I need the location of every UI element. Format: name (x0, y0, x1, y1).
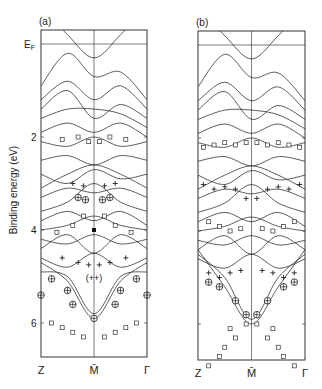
square-marker (287, 143, 291, 147)
circled-plus-marker (48, 276, 55, 283)
panel-b: (b)ZM̄Γ (195, 8, 308, 379)
square-marker (276, 345, 280, 349)
square-marker (108, 135, 112, 139)
panel-label: (b) (196, 17, 208, 28)
square-marker (217, 224, 221, 228)
y-tick-label: 6 (31, 318, 37, 329)
square-marker (271, 327, 275, 331)
y-tick-label: EF (24, 39, 35, 51)
plus-marker (281, 275, 286, 280)
plus-marker (254, 196, 259, 201)
plus-marker (270, 270, 275, 275)
plus-marker (292, 270, 297, 275)
square-marker (103, 214, 107, 218)
circled-plus-marker (112, 301, 119, 308)
square-marker (276, 141, 280, 145)
square-marker (228, 327, 232, 331)
circled-plus-marker (291, 279, 298, 286)
plus-marker (201, 182, 206, 187)
square-marker (55, 230, 59, 234)
panel-label: (a) (39, 16, 51, 27)
square-marker (255, 322, 259, 326)
x-tick-label: Z (38, 364, 45, 376)
square-marker (87, 140, 91, 144)
square-marker (129, 230, 133, 234)
square-marker (81, 335, 85, 339)
square-marker (282, 224, 286, 228)
square-marker (228, 229, 232, 233)
x-tick-label: Γ (302, 367, 308, 379)
square-marker (292, 220, 296, 224)
square-marker (223, 141, 227, 145)
square-marker (81, 214, 85, 218)
square-marker (113, 223, 117, 227)
plus-marker (228, 270, 233, 275)
x-tick-label: M̄ (247, 367, 256, 379)
plus-marker (297, 182, 302, 187)
y-tick-label: 2 (31, 132, 37, 143)
plus-marker (276, 184, 281, 189)
square-marker (292, 364, 296, 368)
circled-plus-marker (205, 279, 212, 286)
circled-plus-marker (264, 297, 271, 304)
square-marker (71, 330, 75, 334)
square-marker (113, 330, 117, 334)
square-marker (134, 321, 138, 325)
x-tick-label: Z (195, 367, 202, 379)
plus-marker (217, 275, 222, 280)
band-structure-figure: Binding energy (eV)EF246(a)(++)ZM̄Γ(b)ZM… (0, 0, 322, 389)
circled-plus-marker (133, 276, 140, 283)
square-marker (233, 336, 237, 340)
circled-plus-marker (232, 297, 239, 304)
circled-plus-marker (70, 301, 77, 308)
square-marker (103, 335, 107, 339)
square-marker (260, 227, 264, 231)
filled-marker (92, 228, 96, 232)
square-marker (244, 141, 248, 145)
square-marker (266, 143, 270, 147)
y-tick-label: 4 (31, 225, 37, 236)
circled-plus-marker (216, 284, 223, 291)
plus-marker (86, 262, 91, 267)
square-marker (282, 355, 286, 359)
x-tick-label: Γ (144, 364, 150, 376)
circled-plus-marker (280, 284, 287, 291)
plus-marker (206, 270, 211, 275)
square-marker (201, 145, 205, 149)
circled-plus-marker (107, 194, 114, 201)
circled-plus-marker (117, 287, 124, 294)
circled-plus-marker (243, 311, 250, 318)
plus-marker (238, 268, 243, 273)
square-marker (60, 137, 64, 141)
square-marker (212, 143, 216, 147)
square-marker (255, 141, 259, 145)
plus-marker (97, 262, 102, 267)
square-marker (266, 336, 270, 340)
panel-a: (a)(++)ZM̄Γ (38, 7, 151, 376)
square-marker (71, 223, 75, 227)
plus-marker (60, 255, 65, 260)
square-marker (271, 229, 275, 233)
circled-plus-marker (82, 196, 89, 203)
plus-marker (70, 181, 75, 186)
square-marker (298, 145, 302, 149)
square-marker (239, 227, 243, 231)
plus-marker (244, 196, 249, 201)
square-marker (60, 326, 64, 330)
square-marker (207, 220, 211, 224)
plus-marker (123, 255, 128, 260)
circled-plus-marker (91, 315, 98, 322)
square-marker (124, 326, 128, 330)
square-marker (76, 135, 80, 139)
circled-plus-marker (75, 194, 82, 201)
square-marker (217, 355, 221, 359)
circled-plus-marker (64, 287, 71, 294)
plus-marker (222, 184, 227, 189)
square-marker (50, 321, 54, 325)
square-marker (233, 143, 237, 147)
circled-plus-marker (254, 311, 261, 318)
square-marker (124, 137, 128, 141)
annotation: (++) (86, 273, 103, 283)
square-marker (97, 140, 101, 144)
plus-marker (113, 181, 118, 186)
